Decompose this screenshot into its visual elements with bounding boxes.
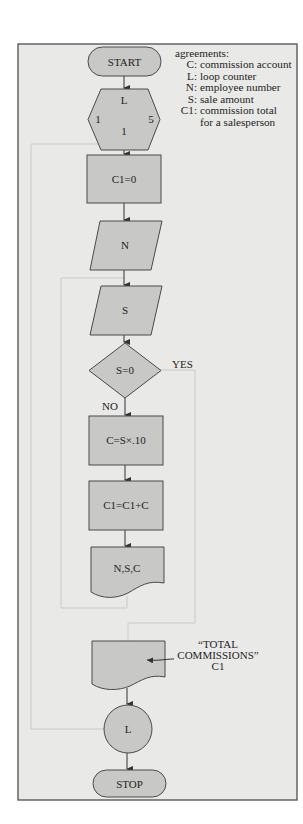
loop-start-hexagon: L 1 5 1 [88, 89, 160, 150]
init-label: C1=0 [112, 173, 137, 185]
legend: agreements: C: commission account L: loo… [175, 47, 293, 128]
start-terminal: START [88, 47, 161, 76]
stop-label: STOP [116, 778, 143, 790]
input-s-label: S [122, 304, 128, 316]
accumulate-label: C1=C1+C [103, 499, 148, 511]
input-n-label: N [121, 239, 129, 251]
legend-value-c1: commission total [200, 104, 277, 116]
input-n-parallelogram: N [90, 221, 162, 270]
legend-value-s: sale amount [200, 93, 255, 105]
total-annotation-line3: C1 [212, 660, 225, 672]
legend-key-l: L: [187, 70, 197, 82]
legend-value-n: employee number [200, 81, 281, 93]
legend-key-n: N: [186, 81, 197, 93]
input-s-parallelogram: S [90, 286, 162, 335]
loop-from-label: 1 [95, 113, 101, 125]
legend-value-c: commission account [200, 58, 293, 70]
output-nsc-label: N,S,C [114, 562, 141, 574]
stop-terminal: STOP [93, 770, 166, 797]
legend-value-l: loop counter [200, 70, 257, 82]
accumulate-box: C1=C1+C [89, 481, 163, 530]
decision-label: S=0 [116, 364, 134, 376]
start-label: START [108, 56, 142, 68]
legend-key-c: C: [186, 58, 197, 70]
calc-commission-box: C=S×.10 [89, 416, 163, 465]
loop-to-label: 5 [148, 113, 154, 125]
legend-value-c1-cont: for a salesperson [200, 116, 276, 128]
loop-end-label: L [125, 723, 132, 735]
loop-end-connector: L [104, 705, 152, 753]
decision-no-label: NO [102, 400, 118, 412]
flowchart-canvas: START L 1 5 1 C1=0 N S S=0 YES NO C=S×.1… [0, 0, 303, 824]
legend-key-c1: C1: [181, 104, 197, 116]
decision-yes-label: YES [172, 358, 193, 370]
loop-variable-label: L [121, 94, 128, 106]
loop-step-label: 1 [121, 125, 127, 137]
legend-key-s: S: [188, 93, 197, 105]
init-process-box: C1=0 [87, 155, 161, 203]
calc-commission-label: C=S×.10 [106, 434, 146, 446]
